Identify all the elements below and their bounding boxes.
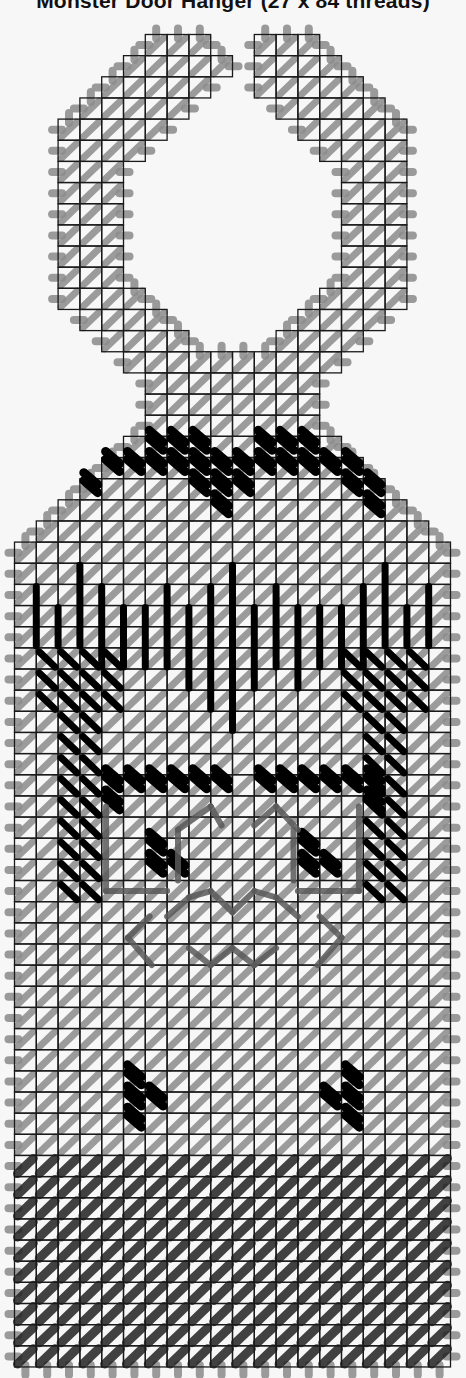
stitch-chart: [0, 0, 466, 1378]
